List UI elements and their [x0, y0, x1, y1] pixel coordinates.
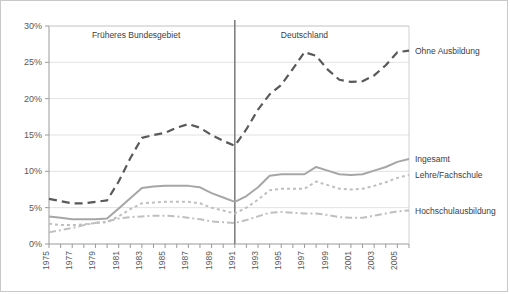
- x-axis-tick-label: 1989: [204, 251, 214, 270]
- x-axis-tick-label: 1975: [41, 251, 51, 270]
- x-axis-tick-label: 2003: [366, 251, 376, 270]
- y-axis-tick-label: 5%: [29, 203, 42, 213]
- series-label-ingesamt: Ingesamt: [415, 154, 451, 164]
- y-axis-tick-label: 0%: [29, 239, 42, 249]
- x-axis-tick-label: 1997: [296, 251, 306, 270]
- x-axis-tick-label: 1999: [320, 251, 330, 270]
- x-axis-tick-label: 1981: [111, 251, 121, 270]
- chart-canvas: 0%5%10%15%20%25%30%197519771979198119831…: [1, 1, 509, 293]
- x-axis-tick-label: 1977: [64, 251, 74, 270]
- x-axis-tick-label: 1993: [250, 251, 260, 270]
- series-label-hochschulausbildung: Hochschulausbildung: [415, 206, 496, 216]
- y-axis-tick-label: 10%: [24, 166, 42, 176]
- y-axis-tick-label: 15%: [24, 130, 42, 140]
- x-axis-tick-label: 2001: [343, 251, 353, 270]
- x-axis-tick-label: 1983: [134, 251, 144, 270]
- x-axis-tick-label: 1991: [227, 251, 237, 270]
- x-axis-tick-label: 1985: [157, 251, 167, 270]
- x-axis-tick-label: 1979: [87, 251, 97, 270]
- region-annotation: Früheres Bundesgebiet: [92, 30, 181, 40]
- y-axis-tick-label: 20%: [24, 94, 42, 104]
- y-axis-tick-label: 30%: [24, 21, 42, 31]
- series-label-ohne-ausbildung: Ohne Ausbildung: [415, 46, 480, 56]
- x-axis-tick-label: 1995: [273, 251, 283, 270]
- region-annotation: Deutschland: [281, 30, 329, 40]
- series-label-lehre-fachschule: Lehre/Fachschule: [415, 170, 483, 180]
- x-axis-tick-label: 2005: [389, 251, 399, 270]
- x-axis-tick-label: 1987: [180, 251, 190, 270]
- chart-figure: 0%5%10%15%20%25%30%197519771979198119831…: [0, 0, 508, 292]
- y-axis-tick-label: 25%: [24, 57, 42, 67]
